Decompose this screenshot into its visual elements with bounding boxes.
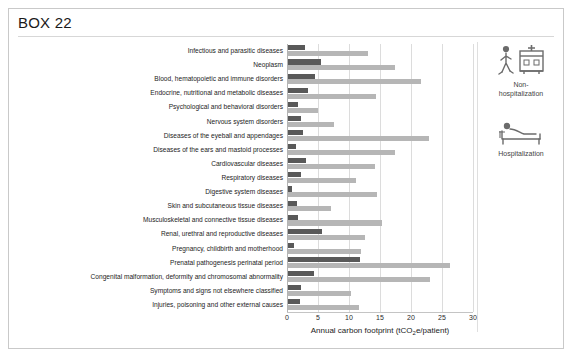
bar-row: Renal, urethral and reproductive disease… <box>287 227 473 241</box>
bar-non-hospitalization <box>288 108 318 113</box>
bar-row: Diseases of the ears and mastoid process… <box>287 143 473 157</box>
bar-hospitalization <box>288 130 303 135</box>
walking-person-hospital-building-icon <box>479 44 563 78</box>
x-tick-label-30: 30 <box>469 314 477 321</box>
category-label: Prenatal pathogenesis perinatal period <box>170 259 283 266</box>
bar-row: Endocrine, nutritional and metabolic dis… <box>287 86 473 100</box>
bar-row: Neoplasm <box>287 58 473 72</box>
legend-label-non-hospitalization: Non-hospitalization <box>479 81 563 99</box>
category-label: Digestive system diseases <box>205 189 283 196</box>
bar-non-hospitalization <box>288 235 365 240</box>
bar-row: Skin and subcutaneous tissue diseases <box>287 199 473 213</box>
bar-hospitalization <box>288 88 308 93</box>
gridline-30 <box>473 44 474 312</box>
category-label: Musculoskeletal and connective tissue di… <box>143 217 283 224</box>
x-axis-line <box>287 312 473 313</box>
x-axis-title-part1: Annual carbon footprint (tCO <box>311 326 413 335</box>
box-title-divider <box>18 36 554 37</box>
bar-row: Prenatal pathogenesis perinatal period <box>287 256 473 270</box>
category-label: Endocrine, nutritional and metabolic dis… <box>150 90 283 97</box>
bar-row: Diseases of the eyeball and appendages <box>287 129 473 143</box>
category-label: Diseases of the eyeball and appendages <box>164 132 283 139</box>
bar-non-hospitalization <box>288 150 395 155</box>
bar-row: Cardiovascular diseases <box>287 157 473 171</box>
bar-non-hospitalization <box>288 249 361 254</box>
legend-item-hospitalization: Hospitalization <box>479 113 563 159</box>
bar-hospitalization <box>288 59 321 64</box>
bar-hospitalization <box>288 102 298 107</box>
bar-non-hospitalization <box>288 94 376 99</box>
bar-hospitalization <box>288 116 301 121</box>
bar-row: Symptoms and signs not elsewhere classif… <box>287 284 473 298</box>
category-label: Psychological and behavioral disorders <box>169 104 283 111</box>
chart-legend: Non-hospitalization Hospitalization <box>479 44 563 172</box>
bar-hospitalization <box>288 271 314 276</box>
category-label: Cardiovascular diseases <box>211 161 283 168</box>
bar-non-hospitalization <box>288 178 356 183</box>
x-tick-label-0: 0 <box>285 314 289 321</box>
category-label: Respiratory diseases <box>221 175 283 182</box>
bar-hospitalization <box>288 74 315 79</box>
legend-item-non-hospitalization: Non-hospitalization <box>479 44 563 99</box>
bar-non-hospitalization <box>288 206 331 211</box>
bar-row: Nervous system disorders <box>287 115 473 129</box>
x-tick-label-10: 10 <box>345 314 353 321</box>
bar-non-hospitalization <box>288 136 429 141</box>
bar-non-hospitalization <box>288 291 351 296</box>
bar-row: Respiratory diseases <box>287 171 473 185</box>
bar-non-hospitalization <box>288 263 450 268</box>
plot-area: Infectious and parasitic diseasesNeoplas… <box>287 44 473 312</box>
category-label: Infectious and parasitic diseases <box>188 48 283 55</box>
bar-row: Psychological and behavioral disorders <box>287 100 473 114</box>
x-axis-title-subscript: 2 <box>413 330 416 336</box>
category-label: Injuries, poisoning and other external c… <box>152 302 283 309</box>
bar-hospitalization <box>288 201 297 206</box>
patient-in-bed-icon <box>479 113 563 147</box>
category-label: Diseases of the ears and mastoid process… <box>153 146 283 153</box>
legend-label-hospitalization: Hospitalization <box>479 150 563 159</box>
category-label: Renal, urethral and reproductive disease… <box>161 231 283 238</box>
bar-hospitalization <box>288 172 301 177</box>
box-title: BOX 22 <box>18 14 72 31</box>
bar-row: Pregnancy, childbirth and motherhood <box>287 241 473 255</box>
bar-non-hospitalization <box>288 305 359 310</box>
bar-hospitalization <box>288 186 292 191</box>
bar-hospitalization <box>288 158 306 163</box>
category-label: Symptoms and signs not elsewhere classif… <box>150 288 283 295</box>
category-label: Pregnancy, childbirth and motherhood <box>172 245 283 252</box>
x-axis-title-part2: e/patient) <box>416 326 449 335</box>
bar-hospitalization <box>288 299 300 304</box>
category-label: Skin and subcutaneous tissue diseases <box>168 203 283 210</box>
category-label: Nervous system disorders <box>207 118 283 125</box>
bar-hospitalization <box>288 229 322 234</box>
category-label: Congenital malformation, deformity and c… <box>91 273 283 280</box>
bar-row: Infectious and parasitic diseases <box>287 44 473 58</box>
x-tick-label-20: 20 <box>407 314 415 321</box>
bar-hospitalization <box>288 45 305 50</box>
bar-hospitalization <box>288 215 298 220</box>
bar-non-hospitalization <box>288 122 334 127</box>
bar-hospitalization <box>288 144 296 149</box>
bar-hospitalization <box>288 243 294 248</box>
bar-non-hospitalization <box>288 192 377 197</box>
x-axis-title: Annual carbon footprint (tCO2e/patient) <box>287 326 473 335</box>
category-label: Neoplasm <box>253 62 283 69</box>
bar-hospitalization <box>288 257 360 262</box>
bar-row: Congenital malformation, deformity and c… <box>287 270 473 284</box>
x-tick-label-5: 5 <box>316 314 320 321</box>
bar-non-hospitalization <box>288 51 368 56</box>
x-tick-label-15: 15 <box>376 314 384 321</box>
bar-non-hospitalization <box>288 220 382 225</box>
category-label: Blood, hematopoietic and immune disorder… <box>154 76 283 83</box>
screenshot-root: BOX 22 Infectious and parasitic diseases… <box>0 0 572 357</box>
bar-row: Injuries, poisoning and other external c… <box>287 298 473 312</box>
bar-rows: Infectious and parasitic diseasesNeoplas… <box>287 44 473 312</box>
bar-non-hospitalization <box>288 277 430 282</box>
bar-row: Musculoskeletal and connective tissue di… <box>287 213 473 227</box>
legend-divider <box>477 42 478 332</box>
bar-hospitalization <box>288 285 301 290</box>
bar-row: Blood, hematopoietic and immune disorder… <box>287 72 473 86</box>
bar-non-hospitalization <box>288 79 421 84</box>
bar-row: Digestive system diseases <box>287 185 473 199</box>
chart-container: Infectious and parasitic diseasesNeoplas… <box>9 38 563 348</box>
